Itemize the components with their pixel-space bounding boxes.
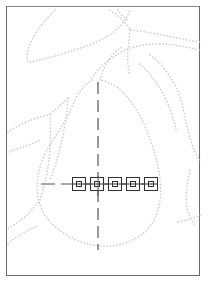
selection-handles[interactable]: [72, 176, 158, 196]
leaf-contour-left: [8, 98, 68, 132]
dotted-contours: [8, 10, 200, 246]
canvas-artwork: [0, 0, 210, 285]
pear-stem-contour: [92, 44, 200, 78]
right-pear-contour: [150, 55, 200, 160]
leaf-contour-top-left: [27, 10, 130, 62]
